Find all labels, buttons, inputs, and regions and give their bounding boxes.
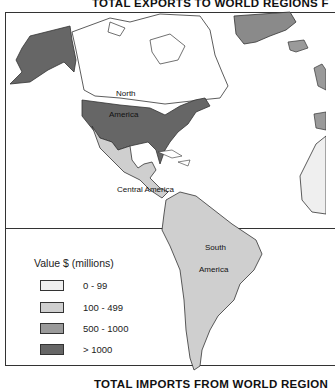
- africa-region: [300, 136, 326, 214]
- label-central-america: Central America: [117, 185, 174, 194]
- legend-item: 100 - 499: [40, 301, 123, 313]
- legend-swatch: [40, 323, 64, 334]
- label-north-america-1: North: [116, 89, 136, 98]
- alaska-region: [10, 26, 76, 84]
- south-america-region: [162, 192, 262, 370]
- usa-region: [82, 98, 210, 164]
- label-south-america-1: South: [205, 243, 226, 252]
- label-north-america-2: America: [109, 110, 138, 119]
- legend-title: Value $ (millions): [34, 257, 114, 269]
- legend-swatch: [40, 280, 64, 291]
- label-south-america-2: America: [199, 265, 228, 274]
- canada-region: [72, 14, 228, 104]
- legend-item: 500 - 1000: [40, 322, 128, 334]
- legend-item: 0 - 99: [40, 279, 107, 291]
- legend-swatch: [40, 302, 64, 313]
- legend-item: > 1000: [40, 343, 112, 355]
- greenland-region: [234, 12, 296, 44]
- imports-map-title: TOTAL IMPORTS FROM WORLD REGION: [94, 378, 328, 390]
- legend-swatch: [40, 344, 64, 355]
